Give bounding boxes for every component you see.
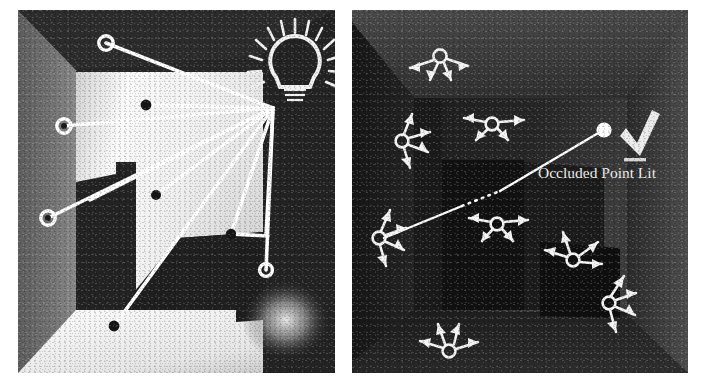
sample-point-occluded [109, 321, 120, 332]
right-panel-canvas: Occluded Point Lit [352, 10, 688, 373]
sample-point-core [61, 123, 67, 129]
sample-point-occluded [141, 100, 152, 111]
occluder-slab [414, 98, 442, 310]
left-wall [18, 10, 76, 373]
sample-point-occluded [151, 190, 161, 200]
floor-glow [242, 280, 330, 360]
sample-point-core [45, 215, 51, 221]
lit-point-marker [596, 122, 611, 137]
left-panel-canvas [18, 10, 335, 373]
checkmark-underline [624, 158, 646, 161]
occluded-point-label: Occluded Point Lit [538, 164, 657, 181]
sample-point-occluded [226, 229, 236, 239]
direct-lighting-panel [18, 10, 335, 373]
shadow-ray-corner [231, 234, 268, 236]
figure-root: Occluded Point Lit [0, 0, 706, 383]
occlusion-panel: Occluded Point Lit [352, 10, 688, 373]
